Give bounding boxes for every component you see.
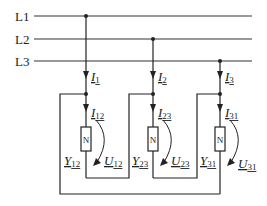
label-u23: U23 <box>171 153 190 169</box>
load-12: N <box>81 127 91 151</box>
svg-text:N: N <box>217 135 224 145</box>
delta-load-circuit-diagram: L1 L2 L3 <box>0 0 267 206</box>
svg-text:N: N <box>83 135 90 145</box>
label-y12: Y12 <box>64 153 80 169</box>
label-l3: L3 <box>15 54 29 69</box>
label-u31: U31 <box>238 156 256 172</box>
label-l2: L2 <box>15 32 29 47</box>
label-i3: I3 <box>224 69 234 85</box>
label-i1: I1 <box>90 69 100 85</box>
label-y31: Y31 <box>200 153 216 169</box>
supply-lines <box>34 16 252 61</box>
label-y23: Y23 <box>132 153 149 169</box>
admittance-labels: Y12 Y23 Y31 <box>64 153 216 169</box>
load-31: N <box>215 127 225 151</box>
label-u12: U12 <box>104 153 122 169</box>
label-i2: I2 <box>157 69 167 85</box>
label-i12: I12 <box>90 105 104 121</box>
line-current-labels: I1 I2 I3 <box>90 69 234 85</box>
load-23: N <box>148 127 158 151</box>
label-i31: I31 <box>224 105 238 121</box>
circuit-svg: L1 L2 L3 <box>0 0 267 206</box>
branch-current-labels: I12 I23 I31 <box>90 105 238 121</box>
svg-text:N: N <box>150 135 157 145</box>
label-l1: L1 <box>15 9 29 24</box>
label-i23: I23 <box>157 105 172 121</box>
line-labels: L1 L2 L3 <box>15 9 29 69</box>
